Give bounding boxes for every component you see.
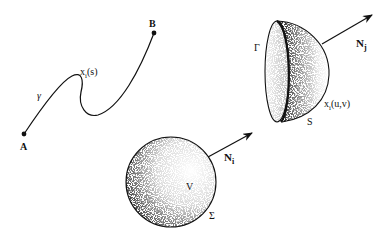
- label-curve-param: xi(s): [80, 66, 98, 80]
- label-volume-v: V: [186, 181, 194, 192]
- label-surface-s: S: [307, 116, 313, 127]
- curve-figure: A B γ xi(s): [20, 18, 156, 152]
- label-normal-nj: Nj: [356, 37, 367, 52]
- volume-figure: Ni V Σ: [126, 133, 252, 227]
- label-sigma-boundary: Σ: [209, 210, 215, 221]
- normal-nj-arrow: [322, 15, 372, 44]
- label-surface-param: xi(u,v): [324, 98, 350, 112]
- diagram-canvas: A B γ xi(s) Nj Γ xi(u,v) S Ni V: [0, 0, 388, 246]
- curve-gamma: [24, 33, 154, 134]
- label-a: A: [20, 141, 28, 152]
- label-normal-ni: Ni: [224, 151, 235, 166]
- point-a: [22, 132, 27, 137]
- surface-figure: Nj Γ xi(u,v) S: [254, 15, 372, 127]
- label-gamma: γ: [37, 90, 42, 101]
- label-b: B: [149, 18, 156, 29]
- label-gamma-boundary: Γ: [254, 42, 260, 53]
- point-b: [152, 31, 157, 36]
